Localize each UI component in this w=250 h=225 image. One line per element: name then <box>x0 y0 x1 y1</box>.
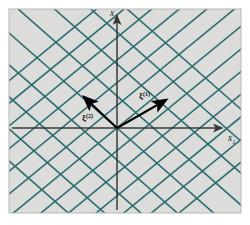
vector-xi-2-label-superscript: (2) <box>86 113 93 120</box>
vector-xi-1-label-superscript: (1) <box>143 91 150 98</box>
x-axis-label-subscript: 1 <box>232 138 235 145</box>
figure-root: x1 x2 ξ(1) ξ(2) <box>0 0 250 225</box>
lattice-basis-vectors-figure: x1 x2 ξ(1) ξ(2) <box>0 0 250 225</box>
